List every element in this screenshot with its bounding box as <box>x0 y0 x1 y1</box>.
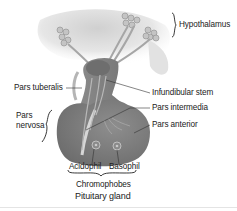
diagram-title: Pituitary gland <box>75 192 131 201</box>
label-pars-intermedia: Pars intermedia <box>152 104 208 112</box>
label-basophil: Basophil <box>109 163 140 171</box>
label-pars-nervosa-line2: nervosa <box>16 122 44 130</box>
label-hypothalamus: Hypothalamus <box>179 21 230 29</box>
label-pars-tuberalis: Pars tuberalis <box>14 84 63 92</box>
bottom-divider <box>0 207 237 208</box>
label-chromophobes: Chromophobes <box>76 181 131 189</box>
label-acidophil: Acidophil <box>69 163 101 171</box>
label-pars-nervosa-line1: Pars <box>16 112 32 120</box>
label-pars-anterior: Pars anterior <box>152 121 198 129</box>
pituitary-diagram: Hypothalamus Pars tuberalis Infundibular… <box>0 0 237 211</box>
label-infundibular-stem: Infundibular stem <box>152 89 213 97</box>
